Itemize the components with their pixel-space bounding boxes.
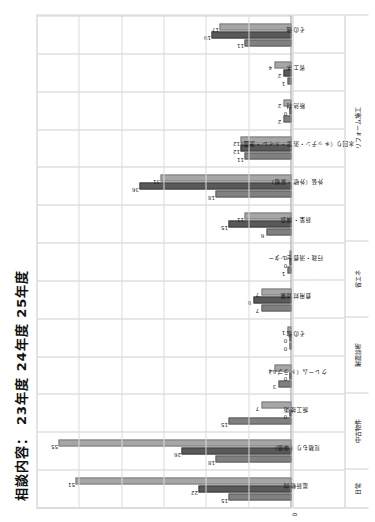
- gridline: [205, 15, 206, 507]
- category-label: 見積もり（単価）: [293, 431, 344, 469]
- category-label-text: 省エネ: [286, 63, 305, 71]
- category-label-text: 費用対効果: [280, 291, 311, 299]
- bar-value-label: 11: [237, 42, 244, 48]
- bar-value-label: 31: [152, 178, 159, 184]
- bar[interactable]: 11: [244, 152, 291, 159]
- bar[interactable]: 11: [244, 39, 291, 46]
- bar-value-label: 1: [281, 329, 285, 335]
- group-label: 日常: [345, 468, 368, 508]
- bar-value-label: 0: [283, 110, 287, 116]
- bar-value-label: 7: [256, 405, 260, 411]
- plot-area: 0 15225118265515073040017971006151118363…: [36, 14, 291, 508]
- category-label: 水回り（キッチン・浴室・トイレ・洗面）: [293, 128, 344, 166]
- category-label-text: 見積もり（単価）: [270, 443, 320, 451]
- gridline: [78, 15, 79, 507]
- bar-value-label: 11: [237, 216, 244, 222]
- category-label: 断熱材: [293, 90, 344, 128]
- gridline: [121, 15, 122, 507]
- bar-value-label: 22: [190, 489, 197, 495]
- bar-value-label: 2: [277, 118, 281, 124]
- category-label-text: その他: [286, 329, 305, 337]
- bar-value-label: 26: [173, 451, 180, 457]
- chart-legend: 相談内容： 23年度 24年度 25年度: [10, 259, 29, 500]
- bar[interactable]: 51: [75, 477, 291, 484]
- category-label-text: その他: [286, 25, 305, 33]
- bar[interactable]: 18: [215, 455, 291, 462]
- bar-value-label: 2: [277, 102, 281, 108]
- category-label: その他: [293, 317, 344, 355]
- category-label: 費用対効果: [293, 279, 344, 317]
- gridline: [36, 15, 37, 507]
- gridline: [248, 15, 249, 507]
- y-axis-zero-label: 0: [290, 512, 297, 516]
- bar-value-label: 3: [273, 383, 277, 389]
- bar-value-label: 36: [131, 186, 138, 192]
- bar-value-label: 17: [212, 26, 219, 32]
- bar-value-label: 11: [237, 156, 244, 162]
- group-label-text: 日常: [352, 482, 361, 494]
- bar[interactable]: 6: [266, 228, 291, 235]
- bar[interactable]: 15: [228, 417, 292, 424]
- bar-value-label: 7: [256, 291, 260, 297]
- category-label-text: クレーム（トラブル）: [264, 367, 326, 375]
- bar-value-label: 51: [68, 481, 75, 487]
- category-label: 省エネ: [293, 52, 344, 90]
- bar[interactable]: 15: [228, 493, 292, 500]
- category-label: 最新動向: [293, 469, 344, 508]
- group-label: リフォーム施工: [345, 14, 368, 240]
- group-label: 省エネ: [345, 240, 368, 316]
- bar-value-label: 0: [283, 345, 287, 351]
- bar[interactable]: 17: [219, 23, 291, 30]
- category-label: 外装（外壁・屋根）: [293, 166, 344, 204]
- bar-value-label: 0: [283, 262, 287, 268]
- gridline: [163, 15, 164, 507]
- category-label-text: 施工技術: [283, 405, 308, 413]
- bar-value-label: 0: [283, 413, 287, 419]
- category-label: クレーム（トラブル）: [293, 355, 344, 393]
- bar-value-label: 7: [256, 307, 260, 313]
- bar[interactable]: 18: [215, 190, 291, 197]
- chart-page: 相談内容： 23年度 24年度 25年度 0 15225118265515073…: [0, 0, 375, 522]
- group-label-text: 省エネ: [352, 270, 361, 288]
- bar[interactable]: 7: [261, 304, 291, 311]
- category-label: 施工技術: [293, 393, 344, 431]
- category-label: 行政・消費センター: [293, 242, 344, 280]
- category-label-text: 行政・消費センター: [267, 253, 323, 261]
- bar[interactable]: 19: [211, 31, 291, 38]
- bar[interactable]: 55: [58, 439, 291, 446]
- category-label-text: 最新動向: [283, 481, 308, 489]
- bar-value-label: 18: [207, 194, 214, 200]
- category-label-text: 水回り（キッチン・浴室・トイレ・洗面）: [236, 139, 354, 147]
- bar-value-label: 2: [277, 72, 281, 78]
- category-label-text: 外装（外壁・屋根）: [267, 177, 323, 185]
- bar-value-label: 1: [281, 80, 285, 86]
- group-label-text: リフォーム施工: [352, 107, 361, 149]
- group-label: 中古物件: [345, 392, 368, 468]
- bar-value-label: 6: [260, 232, 264, 238]
- bar-value-label: 4: [268, 64, 272, 70]
- bar-value-label: 15: [220, 497, 227, 503]
- chart-stage: 相談内容： 23年度 24年度 25年度 0 15225118265515073…: [0, 0, 375, 522]
- bar-value-label: 15: [220, 224, 227, 230]
- bar[interactable]: 22: [198, 485, 291, 492]
- group-label-text: 耐震診断: [352, 343, 361, 367]
- category-label-text: 新築・構造: [280, 215, 311, 223]
- category-label-strip: 最新動向見積もり（単価）施工技術クレーム（トラブル）その他費用対効果行政・消費セ…: [292, 14, 344, 508]
- group-label-text: 中古物件: [352, 419, 361, 443]
- chart-title: 相談内容： 23年度 24年度 25年度: [13, 269, 28, 500]
- bar-value-label: 1: [281, 270, 285, 276]
- bar-value-label: 18: [207, 459, 214, 465]
- category-label: 新築・構造: [293, 204, 344, 242]
- category-label-text: 断熱材: [286, 101, 305, 109]
- group-label: 耐震診断: [345, 316, 368, 392]
- bar-value-label: 12: [233, 148, 240, 154]
- category-label: その他: [293, 14, 344, 52]
- group-label-strip: 日常中古物件耐震診断省エネリフォーム施工: [344, 14, 368, 508]
- bar-value-label: 0: [283, 375, 287, 381]
- bar-value-label: 55: [51, 443, 58, 449]
- bar-value-label: 15: [220, 421, 227, 427]
- bar-value-label: 0: [283, 337, 287, 343]
